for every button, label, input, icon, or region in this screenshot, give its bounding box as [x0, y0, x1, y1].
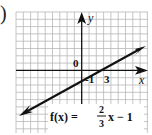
function-graph: y x 0 -1 3 f(x) = 2 3 x − 1: [0, 0, 152, 135]
x-tick-label-3: 3: [104, 73, 110, 85]
equation-rhs: x − 1: [108, 110, 133, 124]
equation-denominator: 3: [99, 118, 104, 129]
x-axis-label: x: [138, 73, 145, 87]
function-equation: f(x) = 2 3 x − 1: [48, 104, 144, 134]
equation-numerator: 2: [99, 104, 104, 115]
y-axis-label: y: [87, 11, 94, 25]
equation-lhs: f(x) =: [50, 110, 78, 124]
y-intercept-label: -1: [85, 73, 94, 85]
origin-label: 0: [73, 57, 79, 69]
